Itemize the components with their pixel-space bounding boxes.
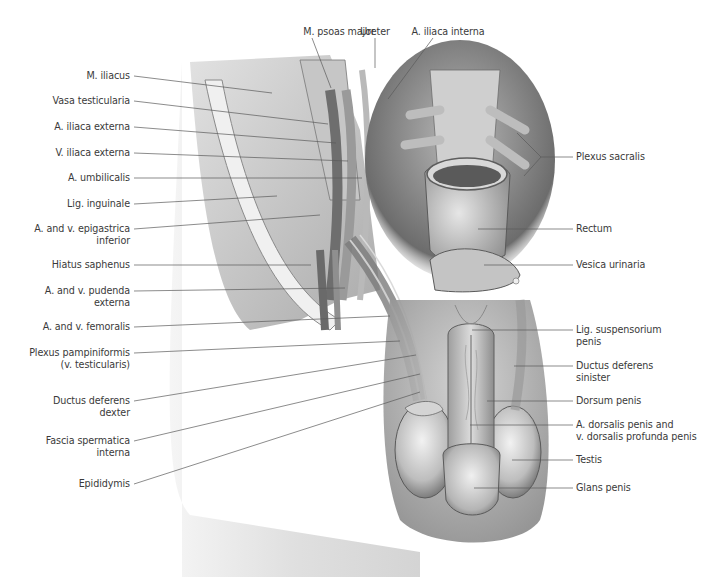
label-inguinale: Lig. inguinale [67, 198, 130, 210]
label-line: penis [576, 336, 662, 348]
label-line: Lig. inguinale [67, 198, 130, 210]
label-iliaca_ext_a: A. iliaca externa [54, 121, 130, 133]
label-iliaca_interna: A. iliaca interna [408, 26, 488, 38]
label-line: Ductus deferens [53, 395, 130, 407]
label-line: Plexus sacralis [576, 151, 645, 163]
label-lig_susp: Lig. suspensoriumpenis [576, 324, 662, 348]
label-pudenda: A. and v. pudendaexterna [45, 285, 130, 309]
label-line: Vesica urinaria [576, 259, 645, 271]
label-ureter: Ureter [335, 26, 415, 38]
femoral-vessels [320, 250, 325, 330]
label-line: interna [46, 447, 130, 459]
label-line: Epididymis [79, 478, 130, 490]
label-line: Fascia spermatica [46, 435, 130, 447]
label-line: Dorsum penis [576, 395, 641, 407]
label-line: Hiatus saphenus [52, 259, 130, 271]
label-line: externa [45, 297, 130, 309]
label-line: dexter [53, 407, 130, 419]
label-line: A. dorsalis penis and [576, 419, 697, 431]
label-line: A. iliaca interna [408, 26, 488, 38]
label-plexus_sacralis: Plexus sacralis [576, 151, 645, 163]
label-line: A. iliaca externa [54, 121, 130, 133]
label-line: Ureter [335, 26, 415, 38]
label-line: v. dorsalis profunda penis [576, 431, 697, 443]
label-dorsum: Dorsum penis [576, 395, 641, 407]
label-umbilicalis: A. umbilicalis [68, 172, 130, 184]
label-iliaca_ext_v: V. iliaca externa [55, 147, 130, 159]
label-line: V. iliaca externa [55, 147, 130, 159]
label-line: sinister [576, 372, 653, 384]
label-epigastrica: A. and v. epigastricainferior [34, 223, 130, 247]
label-line: Testis [576, 454, 602, 466]
label-line: Lig. suspensorium [576, 324, 662, 336]
label-testis: Testis [576, 454, 602, 466]
label-line: inferior [34, 235, 130, 247]
label-saphenus: Hiatus saphenus [52, 259, 130, 271]
label-vasa_test: Vasa testicularia [53, 95, 130, 107]
anatomy-figure: M. psoas majorUreterA. iliaca interna M.… [0, 0, 717, 577]
label-line: Ductus deferens [576, 360, 653, 372]
glans [443, 444, 500, 515]
label-vesica: Vesica urinaria [576, 259, 645, 271]
label-line: Vasa testicularia [53, 95, 130, 107]
label-line: Glans penis [576, 482, 631, 494]
label-iliacus: M. iliacus [86, 70, 130, 82]
label-line: A. and v. pudenda [45, 285, 130, 297]
label-line: A. and v. femoralis [43, 321, 130, 333]
label-ductus_dexter: Ductus deferensdexter [53, 395, 130, 419]
label-line: Plexus pampiniformis [29, 347, 130, 359]
label-fascia: Fascia spermaticainterna [46, 435, 130, 459]
label-line: M. iliacus [86, 70, 130, 82]
label-line: A. and v. epigastrica [34, 223, 130, 235]
label-rectum: Rectum [576, 223, 612, 235]
label-pampiniformis: Plexus pampiniformis(v. testicularis) [29, 347, 130, 371]
label-femoralis: A. and v. femoralis [43, 321, 130, 333]
label-glans: Glans penis [576, 482, 631, 494]
label-line: Rectum [576, 223, 612, 235]
label-ductus_sinister: Ductus deferenssinister [576, 360, 653, 384]
label-epididymis: Epididymis [79, 478, 130, 490]
label-a_dorsalis: A. dorsalis penis andv. dorsalis profund… [576, 419, 697, 443]
label-line: (v. testicularis) [29, 359, 130, 371]
label-line: A. umbilicalis [68, 172, 130, 184]
